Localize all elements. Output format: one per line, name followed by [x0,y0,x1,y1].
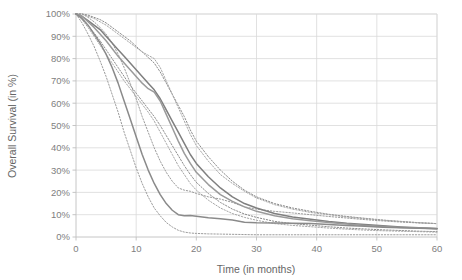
y-tick-label: 0% [56,231,70,242]
chart-canvas: 0%10%20%30%40%50%60%70%80%90%100% 010203… [0,0,462,280]
y-tick-label: 20% [51,187,71,198]
y-tick-label: 30% [51,165,71,176]
x-tick-label: 30 [251,243,262,254]
y-axis-title: Overall Survival (in %) [6,74,18,178]
y-tick-label: 40% [51,142,71,153]
y-tick-label: 80% [51,53,71,64]
x-tick-label: 60 [432,243,443,254]
y-tick-label: 70% [51,75,71,86]
x-tick-label: 0 [73,243,78,254]
x-tick-label: 40 [311,243,322,254]
y-tick-label: 50% [51,120,71,131]
y-tick-label: 10% [51,209,71,220]
x-tick-label: 20 [191,243,202,254]
x-tick-label: 10 [131,243,142,254]
y-tick-label: 100% [46,8,71,19]
y-tick-label: 60% [51,98,71,109]
y-tick-label: 90% [51,31,71,42]
x-axis-title: Time (in months) [217,263,295,275]
survival-chart: 0%10%20%30%40%50%60%70%80%90%100% 010203… [0,0,462,280]
x-tick-label: 50 [372,243,383,254]
